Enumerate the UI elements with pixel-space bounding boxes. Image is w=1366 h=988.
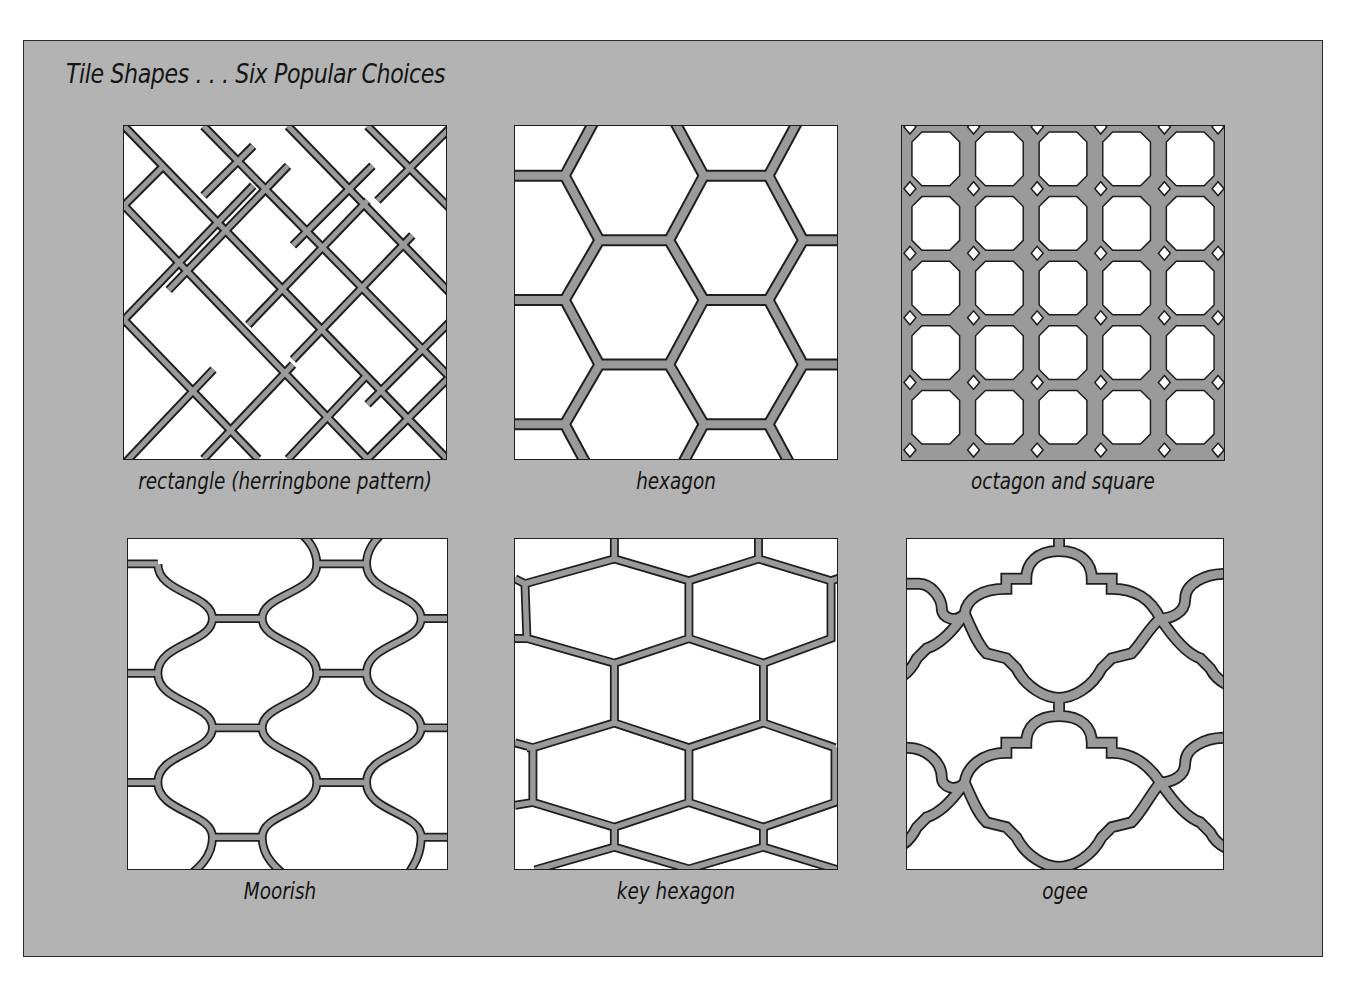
- key-hexagon-pattern-graphic: [515, 539, 837, 869]
- moorish-pattern-graphic: [128, 539, 447, 869]
- tile-octagon-and-square: [901, 125, 1225, 461]
- tile-rectangle-herringbone: [123, 125, 447, 460]
- caption-hexagon: hexagon: [596, 468, 756, 494]
- caption-rectangle: rectangle (herringbone pattern): [125, 468, 445, 494]
- herringbone-pattern-graphic: [124, 126, 446, 459]
- octagon-square-pattern-graphic: [902, 126, 1224, 460]
- ogee-pattern-graphic: [907, 539, 1223, 869]
- tile-ogee: [906, 538, 1224, 870]
- caption-key-hexagon: key hexagon: [596, 878, 756, 904]
- tile-hexagon: [514, 125, 838, 460]
- hexagon-pattern-graphic: [515, 126, 837, 459]
- figure-title: Tile Shapes . . . Six Popular Choices: [66, 58, 445, 89]
- caption-octagon-and-square: octagon and square: [943, 468, 1183, 494]
- tile-key-hexagon: [514, 538, 838, 870]
- caption-moorish: Moorish: [200, 878, 360, 904]
- tile-moorish: [127, 538, 448, 870]
- caption-ogee: ogee: [985, 878, 1145, 904]
